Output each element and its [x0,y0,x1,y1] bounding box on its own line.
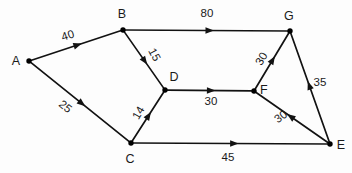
node-dot-E[interactable] [327,141,332,146]
graph-canvas [0,0,352,173]
edge-weight-C-E: 45 [222,152,235,164]
edge-A-B [31,31,120,60]
node-label-C: C [125,153,134,166]
edge-arrowhead-A-B [73,43,82,49]
edge-weight-B-G: 80 [201,8,214,20]
edge-A-C [31,63,129,142]
edge-arrowhead-B-G [205,27,214,34]
edge-B-G [126,27,288,34]
node-dot-B[interactable] [120,27,125,32]
edge-weight-D-F: 30 [205,96,218,108]
node-dot-D[interactable] [162,87,167,92]
node-dot-C[interactable] [128,140,133,145]
edge-arrowhead-B-D [140,56,148,65]
edge-D-F [168,87,252,94]
node-label-A: A [12,55,21,68]
edges-layer [31,27,329,147]
edge-E-F [256,92,328,142]
node-dot-F[interactable] [251,88,256,93]
graph-diagram: 40258015144530303530ABCDEFG [0,0,352,173]
node-label-D: D [169,71,178,84]
edge-arrowhead-C-E [230,140,239,147]
node-label-B: B [118,8,127,21]
node-dot-G[interactable] [287,28,292,33]
node-label-E: E [337,139,346,152]
edge-weight-E-G: 35 [314,77,327,89]
node-label-G: G [284,10,294,23]
edge-arrowhead-D-F [207,87,216,94]
node-dot-A[interactable] [26,58,31,63]
node-label-F: F [260,84,268,97]
edge-C-E [134,140,328,147]
nodes-layer [26,27,332,146]
